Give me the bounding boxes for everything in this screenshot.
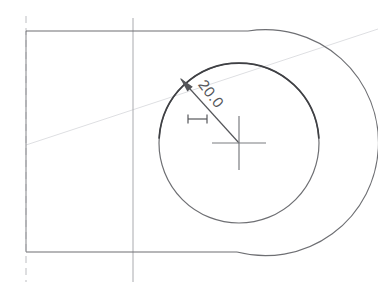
scale-tick-marker: [188, 115, 207, 124]
cad-vector-scene: 20.0: [0, 0, 378, 293]
circle-center-cross: [212, 116, 266, 170]
dimension-value-text: 20.0: [195, 76, 228, 111]
cad-drawing-canvas: 20.0: [0, 0, 378, 293]
